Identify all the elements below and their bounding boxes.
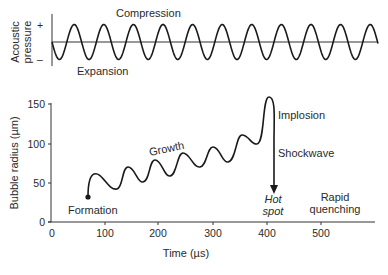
x-tick-300: 300 [204, 227, 222, 239]
plus-label: + [37, 19, 43, 31]
formation-point [85, 194, 90, 199]
hot-spot-label-line1: Hot [264, 193, 282, 205]
y-tick-100: 100 [27, 138, 45, 150]
implosion-label: Implosion [278, 109, 325, 121]
y-tick-0: 0 [39, 216, 45, 228]
acoustic-pressure-panel: Acoustic pressure + – Compression Expans… [9, 7, 378, 77]
formation-label: Formation [68, 204, 118, 216]
minus-label: – [37, 53, 43, 65]
time-xlabel: Time (µs) [163, 247, 209, 259]
y-tick-50: 50 [33, 177, 45, 189]
compression-label: Compression [116, 7, 181, 19]
x-tick-400: 400 [258, 227, 276, 239]
radius-ylabel: Bubble radius (µm) [8, 116, 20, 209]
x-tick-500: 500 [312, 227, 330, 239]
cavitation-diagram: Acoustic pressure + – Compression Expans… [0, 0, 388, 275]
x-tick-100: 100 [96, 227, 114, 239]
pressure-ylabel-line2: pressure [21, 21, 33, 64]
y-ticks: 0 50 100 150 [27, 98, 51, 228]
shockwave-label: Shockwave [278, 147, 334, 159]
hot-spot-label-line2: spot [263, 205, 285, 217]
pressure-ylabel-line1: Acoustic [9, 21, 21, 63]
rapid-quenching-label-line2: quenching [310, 203, 361, 215]
x-tick-200: 200 [149, 227, 167, 239]
y-tick-150: 150 [27, 98, 45, 110]
rapid-quenching-label-line1: Rapid [321, 191, 350, 203]
bubble-radius-panel: Bubble radius (µm) 0 50 100 150 0 100 20… [8, 97, 375, 259]
x-ticks: 0 100 200 300 400 500 [49, 222, 330, 239]
expansion-label: Expansion [77, 65, 128, 77]
x-tick-0: 0 [49, 227, 55, 239]
